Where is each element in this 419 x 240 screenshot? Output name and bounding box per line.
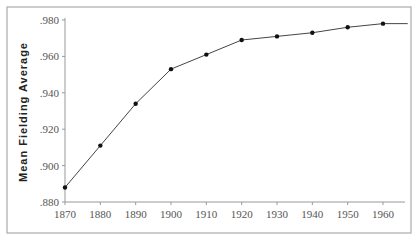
x-tick-label: 1920 [231,208,254,220]
x-tick-label: 1930 [266,208,289,220]
y-tick-label: .900 [40,160,60,172]
x-tick-label: 1890 [125,208,148,220]
data-point [239,38,243,42]
data-point [310,31,314,35]
y-axis-label: Mean Fielding Average [17,42,29,182]
y-tick-label: .960 [40,50,60,62]
chart-frame [7,7,411,233]
data-point [345,25,349,29]
y-tick-label: .940 [40,87,60,99]
data-point [133,102,137,106]
data-point [204,52,208,56]
y-tick-label: .920 [40,123,60,135]
line-chart: Mean Fielding Average .880.900.920.940.9… [0,0,419,240]
data-point [98,143,102,147]
x-tick-label: 1960 [372,208,395,220]
data-point [169,67,173,71]
data-point [275,34,279,38]
x-tick-label: 1910 [195,208,218,220]
x-tick-label: 1950 [337,208,360,220]
y-tick-label: .980 [40,14,60,26]
x-tick-label: 1900 [160,208,183,220]
y-tick-label: .880 [40,196,60,208]
data-point [63,185,67,189]
x-tick-label: 1870 [54,208,77,220]
x-tick-label: 1940 [301,208,324,220]
data-point [381,21,385,25]
x-tick-label: 1880 [89,208,112,220]
